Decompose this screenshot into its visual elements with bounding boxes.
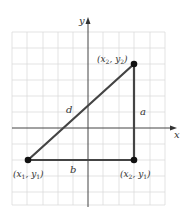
- y-axis-arrow-icon: [86, 17, 91, 24]
- label-d: d: [66, 104, 72, 115]
- x-axis-label: x: [174, 129, 180, 140]
- point-x2-y2: [131, 61, 138, 68]
- distance-diagram: x y d a b (x1, y1) (x2, y2) (x2, y1): [0, 0, 193, 214]
- label-point-x2-y1: (x2, y1): [120, 169, 151, 180]
- label-point-x1-y1: (x1, y1): [13, 169, 44, 180]
- y-axis-label: y: [78, 15, 85, 26]
- label-a: a: [140, 106, 146, 117]
- label-b: b: [70, 164, 76, 175]
- label-point-x2-y2: (x2, y2): [97, 54, 128, 65]
- point-x1-y1: [25, 157, 32, 164]
- point-x2-y1: [131, 157, 138, 164]
